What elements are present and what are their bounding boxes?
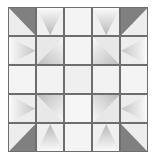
quilt-triangle-left-center-right (9, 37, 35, 64)
quilt-cell (9, 8, 35, 35)
quilt-triangle-top-center-down (37, 8, 63, 35)
quilt-cell (37, 37, 63, 64)
quilt-triangle-top-center-down (93, 8, 119, 35)
quilt-triangle-top-right (9, 8, 35, 35)
quilt-triangle-bottom-right (9, 124, 35, 151)
quilt-figure (0, 0, 156, 159)
quilt-cell (9, 66, 35, 93)
quilt-cell (93, 66, 119, 93)
quilt-cell (93, 8, 119, 35)
quilt-cell (37, 95, 63, 122)
quilt-cell (37, 124, 63, 151)
quilt-triangle-top-right (37, 95, 63, 122)
quilt-cell (9, 37, 35, 64)
quilt-triangle-right-center-left (121, 37, 147, 64)
quilt-cell (65, 124, 91, 151)
quilt-triangle-left-center-right (9, 95, 35, 122)
quilt-cell (65, 37, 91, 64)
quilt-cell (121, 95, 147, 122)
quilt-cell (93, 124, 119, 151)
quilt-cell (37, 8, 63, 35)
quilt-triangle-bottom-center-up (93, 124, 119, 151)
quilt-triangle-bottom-left (121, 124, 147, 151)
quilt-cell (93, 37, 119, 64)
quilt-triangle-top-left (121, 8, 147, 35)
quilt-cell (9, 124, 35, 151)
quilt-cell (93, 95, 119, 122)
quilt-triangle-top-left (93, 95, 119, 122)
quilt-triangle-bottom-left (93, 37, 119, 64)
quilt-cell (37, 66, 63, 93)
quilt-cell (121, 37, 147, 64)
quilt-cell (121, 66, 147, 93)
quilt-triangle-bottom-center-up (37, 124, 63, 151)
quilt-triangle-right-center-left (121, 95, 147, 122)
quilt-triangle-bottom-right (37, 37, 63, 64)
quilt-cell (121, 8, 147, 35)
quilt-grid (8, 7, 148, 152)
quilt-cell (9, 95, 35, 122)
quilt-cell (121, 124, 147, 151)
quilt-cell (65, 95, 91, 122)
quilt-cell (65, 66, 91, 93)
quilt-cell (65, 8, 91, 35)
